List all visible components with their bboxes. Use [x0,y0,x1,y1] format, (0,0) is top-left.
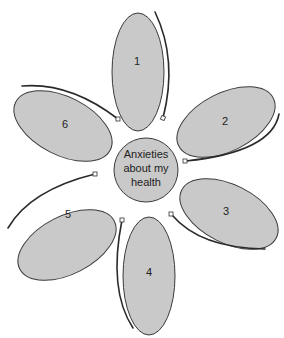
center-line-2: about my [123,162,169,174]
center-line-1: Anxieties [124,148,169,160]
center-line-3: health [131,176,161,188]
petal-4-label: 4 [146,266,152,278]
petal-5: 5 [7,172,128,295]
petal-6-label: 6 [62,118,68,130]
petal-3-label: 3 [223,205,229,217]
petal-2-label: 2 [222,115,228,127]
petal-3: 3 [169,164,284,264]
petal-5-label: 5 [65,208,71,220]
petal-6: 6 [3,76,124,176]
petal-2: 2 [166,72,284,172]
center-hub: Anxieties about my health [114,138,178,202]
petal-1-label: 1 [134,55,140,67]
petal-4: 4 [117,217,175,335]
anxiety-flower-diagram: 1 2 3 4 5 6 Anxieties [0,0,284,338]
petal-1: 1 [112,12,169,131]
diagram-canvas: 1 2 3 4 5 6 Anxieties [0,0,284,338]
